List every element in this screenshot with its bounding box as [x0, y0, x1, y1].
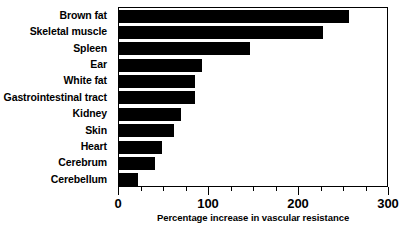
x-axis-tick-75 — [186, 187, 187, 191]
x-axis-tick-200 — [298, 187, 299, 195]
bar-row — [119, 57, 387, 73]
bar-row — [119, 24, 387, 40]
bar-chart-figure: Brown fat Skeletal muscle Spleen Ear Whi… — [0, 0, 408, 231]
plot-area — [118, 7, 388, 187]
x-axis-tick-0 — [118, 187, 119, 195]
bar-spleen — [119, 42, 250, 55]
bar-brown-fat — [119, 10, 349, 23]
category-label-brown-fat: Brown fat — [0, 7, 112, 23]
bar-row — [119, 172, 387, 188]
x-axis-label-300: 300 — [377, 196, 399, 212]
x-axis-tick-125 — [231, 187, 232, 191]
category-label-kidney: Kidney — [0, 105, 112, 121]
bar-ear — [119, 59, 202, 72]
bar-row — [119, 155, 387, 171]
bar-kidney — [119, 108, 181, 121]
x-axis-tick-250 — [343, 187, 344, 191]
category-label-heart: Heart — [0, 138, 112, 154]
bar-row — [119, 139, 387, 155]
category-label-cerebrum: Cerebrum — [0, 154, 112, 170]
x-axis-tick-50 — [163, 187, 164, 191]
bar-row — [119, 90, 387, 106]
category-label-gastrointestinal-tract: Gastrointestinal tract — [0, 89, 112, 105]
x-axis-tick-labels: 0100200300 — [0, 196, 408, 212]
bar-row — [119, 8, 387, 24]
x-axis-tick-225 — [321, 187, 322, 191]
x-axis-label-200: 200 — [287, 196, 309, 212]
x-axis-label-100: 100 — [197, 196, 219, 212]
x-axis-tick-25 — [141, 187, 142, 191]
x-axis-tick-175 — [276, 187, 277, 191]
x-axis-title: Percentage increase in vascular resistan… — [118, 212, 388, 223]
x-axis-tick-300 — [388, 187, 389, 195]
bar-row — [119, 41, 387, 57]
category-label-skin: Skin — [0, 122, 112, 138]
bar-cerebellum — [119, 173, 138, 186]
x-axis-ticks — [118, 187, 388, 196]
bar-heart — [119, 141, 162, 154]
category-label-cerebellum: Cerebellum — [0, 171, 112, 187]
category-axis-labels: Brown fat Skeletal muscle Spleen Ear Whi… — [0, 7, 112, 187]
bar-skin — [119, 124, 174, 137]
category-label-skeletal-muscle: Skeletal muscle — [0, 23, 112, 39]
x-axis-label-0: 0 — [114, 196, 121, 212]
bar-cerebrum — [119, 157, 155, 170]
x-axis-tick-100 — [208, 187, 209, 195]
bar-white-fat — [119, 75, 195, 88]
bar-series — [119, 8, 387, 186]
bar-gastrointestinal-tract — [119, 91, 195, 104]
bar-row — [119, 106, 387, 122]
category-label-white-fat: White fat — [0, 72, 112, 88]
bar-skeletal-muscle — [119, 26, 323, 39]
bar-row — [119, 73, 387, 89]
x-axis-tick-150 — [253, 187, 254, 191]
category-label-ear: Ear — [0, 56, 112, 72]
category-label-spleen: Spleen — [0, 40, 112, 56]
x-axis-tick-275 — [366, 187, 367, 191]
bar-row — [119, 123, 387, 139]
